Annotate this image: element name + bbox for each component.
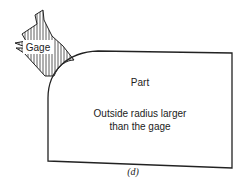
part-label: Part bbox=[131, 77, 150, 88]
part-note-line1: Outside radius larger bbox=[94, 108, 187, 119]
figure-caption: (d) bbox=[127, 166, 139, 178]
diagram-canvas: Gage Part Outside radius larger than the… bbox=[0, 0, 240, 180]
part-note-line2: than the gage bbox=[109, 121, 171, 132]
gage-label: Gage bbox=[26, 42, 51, 53]
